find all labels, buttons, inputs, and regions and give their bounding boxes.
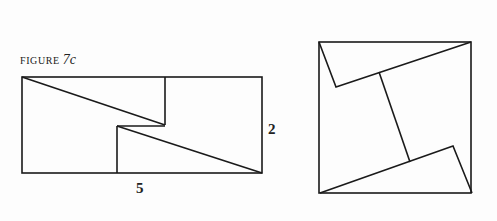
lower-diagonal [117, 126, 262, 173]
dissection-diagrams: 2 5 [0, 0, 497, 221]
square-rearrangement [319, 42, 472, 193]
outer-rectangle [22, 77, 262, 173]
width-label: 5 [136, 180, 144, 196]
height-label: 2 [268, 121, 276, 137]
bottom-triangle [320, 146, 472, 193]
rectangle-dissection [22, 77, 262, 173]
upper-diagonal [22, 77, 165, 125]
connector-line [379, 72, 410, 162]
top-triangle [319, 42, 471, 87]
